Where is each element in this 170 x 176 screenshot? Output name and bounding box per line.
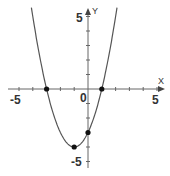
- x-axis-label: X: [158, 76, 164, 86]
- y-max-label: 5: [76, 11, 83, 25]
- x-axis-arrow-icon: [158, 86, 165, 92]
- origin-label: 0: [80, 91, 87, 105]
- x-min-label: -5: [10, 93, 21, 107]
- parabola-curve: [31, 8, 117, 147]
- point-root-right: [99, 86, 104, 91]
- point-root-left: [44, 86, 49, 91]
- chart: -5 0 5 5 -5 Y X: [0, 0, 170, 176]
- point-y-intercept: [85, 130, 90, 135]
- key-points: [44, 86, 104, 149]
- y-axis-arrow-icon: [85, 8, 91, 15]
- x-max-label: 5: [152, 93, 159, 107]
- y-min-label: -5: [71, 155, 82, 169]
- y-axis-label: Y: [92, 6, 98, 16]
- point-vertex: [72, 144, 77, 149]
